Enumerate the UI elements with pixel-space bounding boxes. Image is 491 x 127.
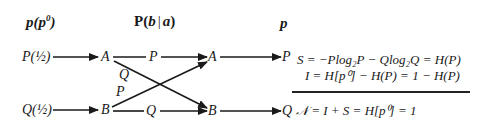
mid-output-A: A <box>208 50 217 64</box>
edge-label-AA: P <box>149 50 158 64</box>
input-prob-A: P(½) <box>22 50 50 64</box>
input-symbol-B: B <box>101 103 110 117</box>
mid-output-B: B <box>208 104 217 118</box>
input-prob-B: Q(½) <box>22 103 52 117</box>
total-equation: 𝒩 = I + S = H[p⁰] = 1 <box>296 103 416 119</box>
entropy-equation: S = −Plog₂P − Qlog₂Q = H(P) <box>297 52 461 68</box>
information-equation: I = H[p⁰] − H(P) = 1 − H(P) <box>305 68 460 84</box>
equation-divider <box>292 91 470 93</box>
input-symbol-A: A <box>101 50 110 64</box>
output-Q: Q <box>282 104 292 118</box>
edge-label-BB: Q <box>146 104 156 118</box>
output-P: P <box>282 50 291 64</box>
edge-label-AB: Q <box>119 68 129 82</box>
edge-label-BA: P <box>116 85 125 99</box>
